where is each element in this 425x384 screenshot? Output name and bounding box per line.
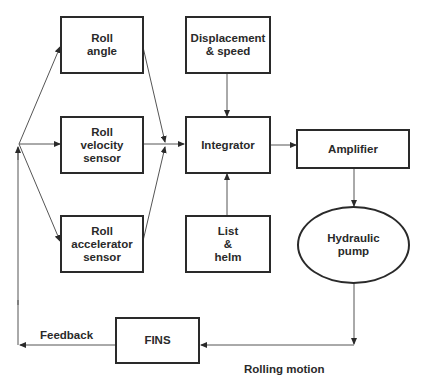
node-roll-velocity-sensor: Roll velocity sensor: [60, 116, 144, 174]
node-roll-velocity-label: Roll velocity sensor: [81, 126, 124, 165]
node-fins-label: FINS: [144, 334, 170, 347]
node-amplifier: Amplifier: [296, 129, 410, 169]
node-integrator: Integrator: [185, 116, 271, 174]
edge-junction-roll-angle: [19, 47, 60, 144]
node-fins: FINS: [115, 317, 200, 364]
node-roll-angle-label: Roll angle: [87, 32, 117, 58]
node-list-helm-label: List & helm: [215, 225, 242, 264]
feedback-label: Feedback: [40, 329, 93, 341]
node-roll-angle: Roll angle: [60, 16, 144, 74]
node-displacement-label: Displacement & speed: [191, 32, 266, 58]
edge-roll-accel-integrator: [143, 147, 165, 241]
node-hydraulic-pump: Hydraulic pump: [297, 206, 410, 284]
node-pump-label: Hydraulic pump: [327, 232, 379, 258]
edge-junction-roll-accel: [19, 144, 60, 241]
node-amplifier-label: Amplifier: [328, 143, 378, 156]
edge-roll-angle-integrator: [143, 47, 165, 142]
node-roll-accel-label: Roll accelerator sensor: [71, 225, 132, 264]
node-list-helm: List & helm: [185, 215, 271, 273]
node-roll-accelerator-sensor: Roll accelerator sensor: [60, 215, 144, 273]
node-displacement-speed: Displacement & speed: [185, 16, 271, 74]
node-integrator-label: Integrator: [201, 139, 255, 152]
rolling-motion-label: Rolling motion: [244, 363, 324, 375]
